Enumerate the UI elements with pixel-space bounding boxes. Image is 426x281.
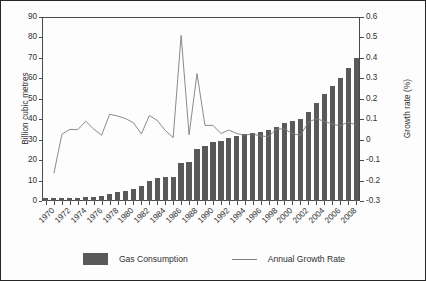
legend-swatch-line-icon [232,259,257,260]
y-tick-right-0.2 [360,99,364,100]
legend-item-gas-consumption: Gas Consumption [83,253,188,265]
x-tick-2008 [348,201,349,205]
x-tick-2006 [332,201,333,205]
y-tick-right--0.2 [360,181,364,182]
y-tick-right-0.4 [360,58,364,59]
y-tick-right--0.3 [360,201,364,202]
chart-figure: Billion cubic metres Growth rate (%) 010… [0,0,426,281]
y-label-left-50: 50 [13,94,37,103]
x-tick-2009 [356,201,357,205]
x-tick-2007 [340,201,341,205]
y-label-right-0.2: 0.2 [366,94,392,103]
legend-swatch-bar-icon [83,253,108,265]
y-label-left-70: 70 [13,53,37,62]
y-tick-left-50 [39,99,43,100]
x-tick-2001 [292,201,293,205]
y-tick-left-90 [39,17,43,18]
x-tick-1976 [94,201,95,205]
y-label-right--0.1: -0.1 [366,155,392,164]
x-tick-1988 [189,201,190,205]
y-tick-left-10 [39,181,43,182]
line-series-annual-growth-rate [42,17,360,201]
legend-label-gas-consumption: Gas Consumption [119,254,188,264]
y-label-left-40: 40 [13,114,37,123]
x-tick-1993 [229,201,230,205]
y-tick-left-80 [39,37,43,38]
y-label-right-0.1: 0.1 [366,114,392,123]
x-tick-1971 [54,201,55,205]
y-label-left-80: 80 [13,32,37,41]
y-tick-right-0.5 [360,37,364,38]
x-tick-1996 [253,201,254,205]
x-tick-1984 [157,201,158,205]
x-tick-1992 [221,201,222,205]
y-label-left-60: 60 [13,73,37,82]
y-label-left-90: 90 [13,12,37,21]
y-tick-right-0 [360,140,364,141]
x-tick-1970 [46,201,47,205]
y-label-right--0.2: -0.2 [366,176,392,185]
x-tick-1994 [237,201,238,205]
x-tick-1974 [78,201,79,205]
x-tick-1990 [205,201,206,205]
y-label-right-0.4: 0.4 [366,53,392,62]
y-tick-left-0 [39,201,43,202]
x-tick-1972 [62,201,63,205]
plot-area [42,17,360,201]
x-tick-1986 [173,201,174,205]
x-tick-1975 [86,201,87,205]
y-axis-title-right: Growth rate (%) [403,39,412,179]
x-tick-1987 [181,201,182,205]
legend-label-annual-growth-rate: Annual Growth Rate [268,254,345,264]
y-label-right-0: 0 [366,135,392,144]
x-tick-1979 [118,201,119,205]
x-tick-2003 [308,201,309,205]
y-label-left-20: 20 [13,155,37,164]
x-tick-2005 [324,201,325,205]
x-tick-2000 [284,201,285,205]
y-label-left-0: 0 [13,196,37,205]
x-tick-1997 [261,201,262,205]
y-label-right-0.6: 0.6 [366,12,392,21]
y-tick-left-30 [39,140,43,141]
y-label-right--0.3: -0.3 [366,196,392,205]
y-tick-right-0.6 [360,17,364,18]
x-tick-2002 [300,201,301,205]
x-tick-1978 [110,201,111,205]
x-tick-1998 [269,201,270,205]
x-tick-1985 [165,201,166,205]
y-tick-left-60 [39,78,43,79]
x-tick-2004 [316,201,317,205]
y-tick-right-0.1 [360,119,364,120]
y-tick-left-20 [39,160,43,161]
chart-legend: Gas Consumption Annual Growth Rate [1,247,426,271]
y-label-left-10: 10 [13,176,37,185]
x-tick-1991 [213,201,214,205]
y-label-right-0.3: 0.3 [366,73,392,82]
x-tick-1989 [197,201,198,205]
y-tick-right-0.3 [360,78,364,79]
y-tick-left-70 [39,58,43,59]
y-label-right-0.5: 0.5 [366,32,392,41]
x-tick-1983 [149,201,150,205]
x-tick-1980 [125,201,126,205]
x-tick-1977 [102,201,103,205]
y-label-left-30: 30 [13,135,37,144]
x-tick-1982 [141,201,142,205]
x-tick-1999 [277,201,278,205]
x-tick-1995 [245,201,246,205]
x-tick-1981 [133,201,134,205]
x-tick-1973 [70,201,71,205]
growth-rate-polyline [54,35,356,173]
y-tick-left-40 [39,119,43,120]
y-tick-right--0.1 [360,160,364,161]
legend-item-annual-growth-rate: Annual Growth Rate [232,254,345,264]
